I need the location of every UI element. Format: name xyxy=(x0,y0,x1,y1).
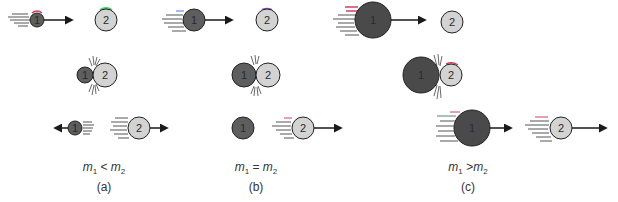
panel-b-relation: m1 = m2 xyxy=(235,160,278,176)
relation-operator: = xyxy=(252,160,259,174)
panel-a-relation: m1 < m2 xyxy=(83,160,126,176)
panel-b-after: 1 2 xyxy=(232,117,341,139)
ball-1-label: 1 xyxy=(370,14,376,26)
motion-lines-icon xyxy=(83,122,94,134)
motion-lines-icon xyxy=(8,14,30,26)
panel-c: 1 2 1 2 xyxy=(333,2,606,146)
panel-a-letter: (a) xyxy=(97,180,112,194)
ball-1-label: 1 xyxy=(241,69,247,81)
ball-1-label: 1 xyxy=(418,69,424,81)
motion-lines-icon xyxy=(110,118,129,138)
ball-2-label: 2 xyxy=(449,16,455,28)
panel-c-after: 1 2 xyxy=(436,110,606,146)
ball-1-label: 1 xyxy=(240,122,246,134)
ball-1-label: 1 xyxy=(82,69,88,81)
panel-b-letter: (b) xyxy=(249,180,264,194)
panel-a-collision: 1 2 xyxy=(77,56,117,95)
mass-symbol: m xyxy=(448,160,458,174)
ball-1-label: 1 xyxy=(469,122,475,134)
panel-b: 1 2 1 2 1 xyxy=(162,9,341,139)
panel-b-collision: 1 2 xyxy=(232,55,280,96)
ball-2-label: 2 xyxy=(136,122,142,134)
panel-c-before: 1 2 xyxy=(333,2,463,38)
ball-2-label: 2 xyxy=(448,69,454,81)
ball-2-label: 2 xyxy=(102,69,108,81)
mass-subscript: 2 xyxy=(483,167,487,176)
panel-b-before: 1 2 xyxy=(162,9,278,31)
panel-a-before: 1 2 xyxy=(8,8,117,31)
ball-2-label: 2 xyxy=(265,69,271,81)
ball-1-label: 1 xyxy=(191,14,197,26)
mass-subscript: 2 xyxy=(121,167,125,176)
mass-symbol: m xyxy=(235,160,245,174)
mass-symbol: m xyxy=(83,160,93,174)
relation-operator: < xyxy=(100,160,107,174)
mass-subscript: 2 xyxy=(273,167,277,176)
panel-a-after: 1 2 xyxy=(55,117,167,139)
mass-subscript: 1 xyxy=(245,167,249,176)
mass-symbol: m xyxy=(263,160,273,174)
ball-2-label: 2 xyxy=(264,14,270,26)
ball-2-label: 2 xyxy=(558,122,564,134)
ball-1-label: 1 xyxy=(72,122,78,134)
panel-c-relation: m1 >m2 xyxy=(448,160,487,176)
panel-c-letter: (c) xyxy=(461,180,475,194)
mass-subscript: 1 xyxy=(93,167,97,176)
motion-lines-icon xyxy=(272,118,294,138)
ball-2-label: 2 xyxy=(300,122,306,134)
panel-c-collision: 1 2 xyxy=(403,54,462,99)
mass-symbol: m xyxy=(111,160,121,174)
motion-lines-icon xyxy=(162,11,186,31)
mass-symbol: m xyxy=(473,160,483,174)
ball-2-label: 2 xyxy=(103,14,109,26)
mass-subscript: 1 xyxy=(458,167,462,176)
relation-operator: > xyxy=(466,160,473,174)
ball-1-label: 1 xyxy=(34,14,40,26)
panel-a: 1 2 1 2 1 xyxy=(8,8,167,139)
motion-lines-icon xyxy=(525,117,552,141)
